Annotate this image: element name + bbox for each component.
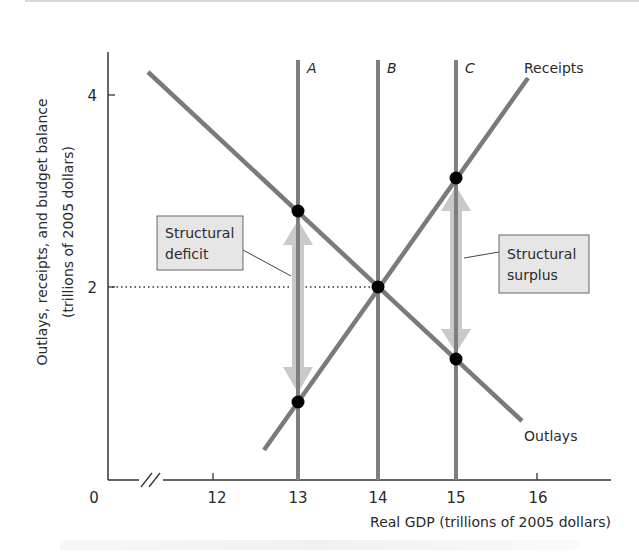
deficit-label-line1: Structural	[165, 225, 234, 241]
axis-break-icon	[139, 472, 163, 488]
y-tick-label-2: 2	[87, 279, 97, 297]
y-axis-title-line2: (trillions of 2005 dollars)	[60, 146, 76, 318]
x-tick-label-12: 12	[207, 489, 226, 507]
budget-balance-chart: 4 2 0 12 13 14 15 16 Real GDP (trillions…	[0, 0, 639, 556]
y-axis-title-line1: Outlays, receipts, and budget balance	[34, 98, 50, 365]
bleed-through-text	[60, 540, 580, 550]
point-b-balanced	[372, 281, 385, 294]
structural-deficit-box: Structural deficit	[157, 216, 243, 270]
y-tick-label-4: 4	[87, 87, 97, 105]
outlays-label: Outlays	[524, 428, 577, 444]
label-a: A	[306, 60, 317, 76]
x-tick-label-15: 15	[446, 489, 465, 507]
label-c: C	[465, 60, 475, 76]
surplus-leader-line	[464, 252, 499, 258]
point-c-receipts	[450, 172, 463, 185]
x-tick-label-13: 13	[288, 489, 307, 507]
x-tick-label-0: 0	[89, 489, 99, 507]
structural-surplus-box: Structural surplus	[499, 235, 589, 293]
surplus-label-line1: Structural	[507, 246, 576, 262]
point-c-outlays	[450, 353, 463, 366]
deficit-leader-line	[243, 250, 291, 276]
label-b: B	[387, 60, 397, 76]
receipts-label: Receipts	[524, 60, 584, 76]
x-tick-label-14: 14	[368, 489, 387, 507]
x-tick-label-16: 16	[528, 489, 547, 507]
point-a-outlays	[292, 205, 305, 218]
x-axis-title: Real GDP (trillions of 2005 dollars)	[370, 514, 611, 530]
surplus-label-line2: surplus	[507, 267, 558, 283]
point-a-receipts	[292, 396, 305, 409]
deficit-label-line2: deficit	[165, 246, 209, 262]
